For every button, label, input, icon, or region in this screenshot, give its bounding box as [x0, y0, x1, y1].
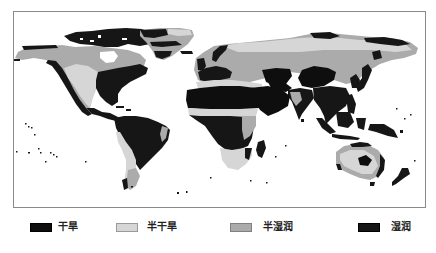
island	[285, 145, 287, 147]
greenland	[140, 28, 194, 60]
island	[38, 148, 40, 150]
north-america	[14, 28, 154, 121]
region-east-africa	[242, 116, 256, 140]
region-sulawesi	[356, 118, 366, 130]
island	[404, 118, 406, 120]
region-chile-south	[122, 178, 128, 190]
region-madagascar	[256, 140, 266, 158]
island	[28, 152, 30, 154]
swatch-humid	[358, 223, 380, 232]
island	[85, 161, 87, 163]
island	[250, 180, 252, 182]
island	[396, 108, 398, 110]
region-sahel	[188, 108, 258, 116]
oceania	[336, 142, 410, 186]
island	[266, 182, 268, 184]
island	[40, 152, 42, 154]
island	[186, 191, 188, 193]
region-java	[332, 134, 360, 140]
legend-label-semi-arid: 半干旱	[147, 220, 177, 234]
region-aleutians	[14, 59, 20, 61]
island	[400, 130, 403, 133]
region-sri-lanka	[301, 119, 304, 122]
legend-item-semi-humid: 半湿润	[230, 218, 300, 238]
island	[414, 160, 416, 162]
region-borneo	[336, 112, 354, 128]
ice-patch	[98, 35, 101, 38]
legend-label-arid: 干旱	[58, 220, 78, 234]
island	[16, 151, 18, 153]
legend-label-semi-humid: 半湿润	[263, 220, 293, 234]
island	[275, 156, 277, 158]
island	[53, 154, 55, 156]
island	[34, 134, 36, 136]
island	[31, 127, 33, 129]
region-philippines	[346, 94, 356, 114]
island	[56, 156, 58, 158]
region-new-zealand	[392, 168, 410, 186]
legend-item-semi-arid: 半干旱	[116, 218, 186, 238]
ice-patch	[90, 40, 94, 42]
legend-label-humid: 湿润	[391, 220, 411, 234]
region-caribbean	[126, 109, 131, 111]
swatch-semi-humid	[230, 223, 252, 232]
region-north-australia	[350, 142, 372, 147]
island	[25, 123, 27, 125]
south-america	[114, 116, 170, 190]
legend-item-humid: 湿润	[358, 218, 418, 238]
swatch-arid	[30, 223, 52, 232]
region-iceland	[180, 51, 193, 54]
island	[210, 177, 212, 179]
world-climate-map	[0, 0, 436, 210]
island	[28, 126, 30, 128]
island	[177, 192, 179, 194]
legend: 干旱 半干旱 半湿润 湿润	[0, 218, 436, 240]
ice-patch	[122, 38, 127, 40]
swatch-semi-arid	[116, 223, 138, 232]
ice-patch	[80, 38, 83, 40]
region-tasmania	[370, 182, 375, 186]
region-caribbean	[116, 106, 124, 108]
island	[50, 152, 52, 154]
legend-item-arid: 干旱	[30, 218, 90, 238]
region-new-guinea	[368, 124, 398, 138]
island-falklands	[131, 186, 133, 188]
island	[45, 161, 47, 163]
island	[410, 114, 412, 116]
